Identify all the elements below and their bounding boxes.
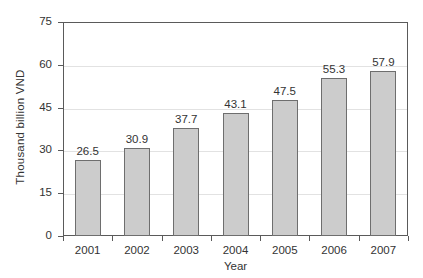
bar: [321, 78, 347, 236]
x-axis-tick: [359, 236, 360, 241]
bar: [75, 160, 101, 236]
bar-value-label: 30.9: [107, 133, 167, 146]
bar: [173, 128, 199, 236]
bar: [370, 71, 396, 236]
x-axis-label: 2007: [353, 243, 413, 257]
y-axis-tick: [58, 108, 63, 109]
x-axis-tick: [63, 236, 64, 241]
y-axis-label: 0: [18, 230, 52, 241]
y-axis-label-wrap: 0: [18, 230, 52, 241]
bar-value-label: 26.5: [58, 145, 118, 158]
y-axis-label: 75: [18, 16, 52, 27]
bar-value-label: 43.1: [206, 98, 266, 111]
y-axis-label-wrap: 30: [18, 144, 52, 155]
bar: [272, 100, 298, 236]
y-axis-label-wrap: 75: [18, 16, 52, 27]
x-axis-tick: [211, 236, 212, 241]
x-axis-tick: [112, 236, 113, 241]
bar-value-label: 57.9: [353, 56, 413, 69]
x-axis-tick: [260, 236, 261, 241]
y-axis-tick: [58, 22, 63, 23]
x-axis-tick: [309, 236, 310, 241]
bar: [223, 113, 249, 236]
y-axis-label: 45: [18, 102, 52, 113]
y-axis-label-wrap: 60: [18, 59, 52, 70]
bar: [124, 148, 150, 236]
bar-value-label: 47.5: [255, 85, 315, 98]
bar-chart: Thousand billion VND 0153045607526.52001…: [0, 0, 423, 278]
x-axis-title: Year: [63, 259, 408, 273]
y-axis-label: 30: [18, 144, 52, 155]
x-axis-tick: [408, 236, 409, 241]
y-axis-label: 15: [18, 187, 52, 198]
y-axis-label-wrap: 45: [18, 102, 52, 113]
y-axis-tick: [58, 65, 63, 66]
bar-value-label: 37.7: [156, 113, 216, 126]
y-axis-title: Thousand billion VND: [12, 16, 28, 238]
y-axis-label: 60: [18, 59, 52, 70]
x-axis-tick: [162, 236, 163, 241]
y-axis-tick: [58, 193, 63, 194]
y-axis-label-wrap: 15: [18, 187, 52, 198]
